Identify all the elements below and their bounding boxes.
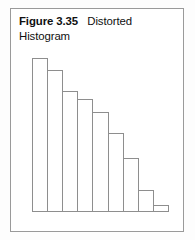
histogram-bar bbox=[62, 91, 78, 211]
histogram-bar bbox=[32, 58, 48, 211]
histogram-bar bbox=[92, 112, 108, 211]
figure-root: Figure 3.35 Distorted Histogram bbox=[0, 0, 195, 240]
histogram-bars bbox=[32, 56, 169, 211]
figure-border: Figure 3.35 Distorted Histogram bbox=[10, 8, 184, 232]
histogram-bar bbox=[108, 133, 124, 211]
histogram-bar bbox=[47, 70, 63, 211]
figure-caption-number: Figure 3.35 bbox=[19, 15, 78, 27]
histogram-bar bbox=[77, 99, 93, 211]
figure-caption: Figure 3.35 Distorted Histogram bbox=[19, 14, 177, 44]
histogram-bar bbox=[123, 158, 139, 211]
histogram-plot-area bbox=[32, 56, 170, 218]
x-axis-baseline bbox=[32, 211, 169, 212]
histogram-bar bbox=[138, 190, 154, 211]
